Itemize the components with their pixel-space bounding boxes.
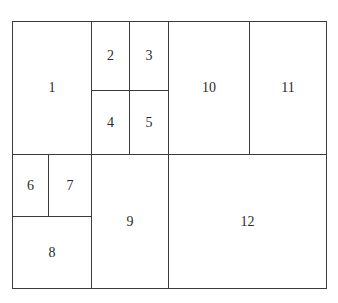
- cell-label: 7: [67, 179, 74, 193]
- cell-label: 5: [146, 116, 153, 130]
- cell-label: 4: [107, 116, 114, 130]
- cell-8: 8: [12, 216, 92, 289]
- cell-7: 7: [48, 154, 92, 217]
- cell-label: 6: [27, 179, 34, 193]
- cell-1: 1: [12, 21, 92, 155]
- cell-11: 11: [249, 21, 327, 155]
- cell-3: 3: [129, 21, 169, 91]
- cell-2: 2: [91, 21, 130, 91]
- cell-label: 9: [127, 215, 134, 229]
- cell-5: 5: [129, 90, 169, 155]
- cell-label: 10: [202, 81, 216, 95]
- cell-label: 2: [107, 49, 114, 63]
- cell-label: 11: [281, 81, 294, 95]
- cell-label: 8: [49, 246, 56, 260]
- cell-9: 9: [91, 154, 169, 289]
- cell-6: 6: [12, 154, 49, 217]
- cell-12: 12: [168, 154, 327, 289]
- partition-diagram: 123451011678912: [0, 0, 338, 303]
- cell-10: 10: [168, 21, 250, 155]
- cell-label: 1: [49, 81, 56, 95]
- cell-label: 3: [146, 49, 153, 63]
- cell-label: 12: [241, 215, 255, 229]
- cell-4: 4: [91, 90, 130, 155]
